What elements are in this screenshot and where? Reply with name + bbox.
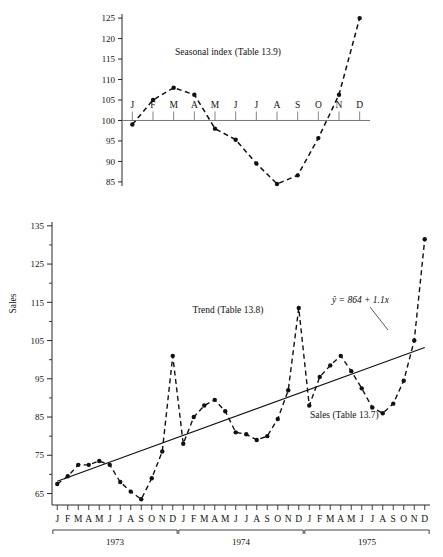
- top-chart-month-label: O: [315, 100, 322, 110]
- sales-point: [339, 354, 343, 358]
- combined-chart-svg: 859095100105110115120125JFMAMJJASONDSeas…: [0, 0, 443, 557]
- top-chart-y-tick-label: 90: [106, 157, 116, 167]
- bottom-chart-y-axis-title: Sales: [8, 293, 18, 313]
- bottom-chart-y-tick-label: 125: [31, 259, 45, 269]
- sales-point: [276, 417, 280, 421]
- sales-point: [97, 459, 101, 463]
- sales-point: [139, 497, 143, 501]
- seasonal-index-point: [171, 86, 175, 90]
- top-chart-month-label: A: [274, 100, 281, 110]
- seasonal-index-point: [295, 173, 299, 177]
- sales-point: [412, 338, 416, 342]
- bottom-chart-y-tick-label: 95: [35, 374, 45, 384]
- seasonal-index-point: [233, 138, 237, 142]
- bottom-chart-month-label: A: [211, 514, 218, 524]
- sales-point: [66, 474, 70, 478]
- bottom-chart-month-label: D: [421, 514, 428, 524]
- sales-point: [129, 489, 133, 493]
- bottom-chart-month-label: D: [169, 514, 176, 524]
- seasonal-index-line: [132, 18, 359, 184]
- seasonal-index-point: [357, 16, 361, 20]
- bottom-chart-month-label: J: [181, 514, 185, 524]
- bottom-chart-month-label: J: [118, 514, 122, 524]
- bottom-chart-month-label: A: [379, 514, 386, 524]
- top-chart-y-tick-label: 120: [102, 34, 116, 44]
- bottom-chart-month-label: N: [411, 514, 418, 524]
- sales-point: [402, 379, 406, 383]
- sales-point: [108, 463, 112, 467]
- sales-point: [318, 375, 322, 379]
- top-chart-month-label: M: [169, 100, 178, 110]
- bottom-chart-month-label: O: [274, 514, 281, 524]
- bottom-chart-month-label: J: [307, 514, 311, 524]
- top-chart-y-tick-label: 115: [102, 54, 116, 64]
- seasonal-index-point: [316, 136, 320, 140]
- seasonal-index-point: [192, 92, 196, 96]
- sales-point: [286, 388, 290, 392]
- sales-point: [328, 363, 332, 367]
- seasonal-index-title: Seasonal index (Table 13.9): [175, 47, 281, 58]
- seasonal-index-point: [275, 182, 279, 186]
- bottom-chart-month-label: N: [285, 514, 292, 524]
- bottom-chart-month-label: J: [360, 514, 364, 524]
- bottom-chart-y-tick-label: 135: [31, 221, 45, 231]
- sales-point: [297, 306, 301, 310]
- sales-point: [55, 482, 59, 486]
- bottom-chart-month-label: M: [200, 514, 209, 524]
- bottom-chart-month-label: J: [370, 514, 374, 524]
- figure-root: 859095100105110115120125JFMAMJJASONDSeas…: [0, 0, 443, 557]
- bottom-chart-month-label: A: [253, 514, 260, 524]
- chart-canvas: 859095100105110115120125JFMAMJJASONDSeas…: [0, 0, 443, 557]
- sales-point: [160, 449, 164, 453]
- bottom-chart-month-label: A: [127, 514, 134, 524]
- top-chart-month-label: J: [234, 100, 238, 110]
- top-chart-month-label: J: [130, 100, 134, 110]
- bottom-chart-month-label: F: [191, 514, 196, 524]
- bottom-chart-month-label: S: [265, 514, 270, 524]
- year-label: 1975: [358, 537, 377, 547]
- year-bracket: [53, 530, 177, 534]
- seasonal-index-point: [130, 122, 134, 126]
- top-chart-y-tick-label: 105: [102, 95, 116, 105]
- sales-annotation-label: Sales (Table 13.7): [310, 410, 379, 421]
- year-label: 1973: [106, 537, 125, 547]
- bottom-chart-month-label: M: [221, 514, 230, 524]
- sales-point: [391, 401, 395, 405]
- bottom-chart-y-tick-label: 105: [31, 336, 45, 346]
- bottom-chart-month-label: F: [65, 514, 70, 524]
- seasonal-index-point: [151, 98, 155, 102]
- bottom-chart-y-tick-label: 115: [31, 298, 45, 308]
- bottom-chart-y-tick-label: 75: [35, 450, 45, 460]
- year-bracket: [179, 530, 303, 534]
- bottom-chart-month-label: M: [74, 514, 83, 524]
- bottom-chart-y-tick-label: 85: [35, 412, 45, 422]
- bottom-chart-month-label: O: [148, 514, 155, 524]
- sales-point: [234, 430, 238, 434]
- sales-point: [76, 463, 80, 467]
- top-chart-y-tick-label: 95: [106, 136, 116, 146]
- sales-point: [349, 369, 353, 373]
- top-chart-y-tick-label: 125: [102, 13, 116, 23]
- seasonal-index-point: [254, 161, 258, 165]
- top-chart-y-tick-label: 110: [102, 75, 116, 85]
- sales-line: [57, 239, 425, 499]
- sales-point: [360, 386, 364, 390]
- equation-leader-line: [370, 307, 388, 330]
- seasonal-index-point: [213, 126, 217, 130]
- sales-point: [381, 411, 385, 415]
- bottom-chart-month-label: D: [295, 514, 302, 524]
- bottom-chart-month-label: S: [139, 514, 144, 524]
- bottom-chart-month-label: A: [85, 514, 92, 524]
- bottom-chart-month-label: O: [400, 514, 407, 524]
- sales-point: [192, 415, 196, 419]
- sales-point: [202, 403, 206, 407]
- sales-point: [265, 434, 269, 438]
- top-chart-y-tick-label: 85: [106, 177, 116, 187]
- bottom-chart-month-label: F: [317, 514, 322, 524]
- top-chart-month-label: J: [254, 100, 258, 110]
- bottom-chart-month-label: S: [391, 514, 396, 524]
- sales-point: [171, 354, 175, 358]
- bottom-chart-month-label: M: [347, 514, 356, 524]
- top-chart-month-label: S: [295, 100, 300, 110]
- sales-point: [181, 442, 185, 446]
